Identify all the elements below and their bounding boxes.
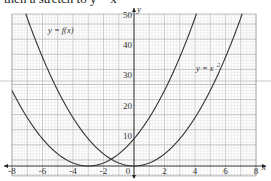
- y-tick-label: 20: [123, 101, 133, 111]
- x-tick-label: 4: [193, 166, 198, 176]
- svg-text:2: 2: [217, 62, 220, 68]
- x-tick-label: 2: [162, 166, 167, 176]
- y-axis-arrow-icon: [132, 8, 136, 12]
- x-tick-label: -8: [8, 166, 16, 176]
- x-tick-label: -4: [69, 166, 77, 176]
- y-tick-label: 40: [123, 40, 133, 50]
- x-tick-label: -6: [39, 166, 47, 176]
- y-tick-label: 50: [123, 10, 133, 20]
- x-tick-label: 8: [254, 166, 259, 176]
- curve-f: [12, 14, 197, 166]
- y-tick-label: 10: [123, 131, 133, 141]
- x-tick-label: 6: [223, 166, 228, 176]
- x-tick-label: -2: [100, 166, 108, 176]
- label-f: y = f(x): [47, 25, 74, 35]
- x-tick-label: 0: [126, 166, 131, 176]
- svg-text:x: x: [261, 162, 266, 172]
- svg-text:y: y: [136, 4, 141, 14]
- label-x2: y = x: [195, 63, 214, 73]
- graph: -8-6-4-2024681020304050xyy = f(x)y = x2: [0, 0, 271, 181]
- y-tick-label: 30: [123, 70, 133, 80]
